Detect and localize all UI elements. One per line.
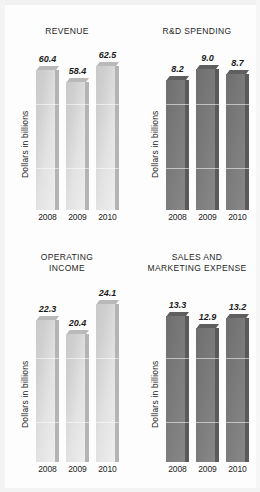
bar-slot-2010: 13.2	[226, 298, 249, 462]
x-axis-revenue: 2008 2009 2010	[36, 212, 128, 222]
x-tick-2010: 2010	[96, 212, 119, 222]
plot-area-revenue: 60.4 58.4 62.5	[36, 62, 128, 210]
x-tick-2009: 2009	[196, 212, 219, 222]
y-axis-caption-revenue: Dollars in billions	[20, 88, 30, 178]
bar-side-face	[85, 82, 89, 210]
chart-grid: REVENUE Dollars in billions 60.4 58.4	[0, 0, 260, 492]
bar-sales-2008[interactable]	[166, 312, 189, 462]
bar-front-face	[36, 70, 55, 210]
x-tick-2009: 2009	[66, 464, 89, 474]
bar-slot-2008: 22.3	[36, 298, 59, 462]
bar-value-label: 24.1	[99, 288, 117, 298]
bar-value-label: 12.9	[199, 312, 217, 322]
bar-front-face	[226, 74, 245, 210]
bar-slot-2010: 24.1	[96, 298, 119, 462]
bar-front-face	[196, 69, 215, 210]
bar-rd-2008[interactable]	[166, 76, 189, 210]
bar-side-face	[215, 328, 219, 462]
x-tick-2009: 2009	[66, 212, 89, 222]
bar-side-face	[55, 70, 59, 210]
x-tick-2010: 2010	[96, 464, 119, 474]
x-axis-operating-income: 2008 2009 2010	[36, 464, 128, 474]
bar-value-label: 58.4	[69, 66, 87, 76]
y-axis-caption-rd-spending: Dollars in billions	[150, 88, 160, 178]
bar-slot-2009: 58.4	[66, 62, 89, 210]
bar-rd-2010[interactable]	[226, 70, 249, 210]
x-axis-rd-spending: 2008 2009 2010	[166, 212, 258, 222]
bar-value-label: 60.4	[39, 54, 57, 64]
bar-front-face	[66, 334, 85, 462]
plot-area-rd-spending: 8.2 9.0 8.7	[166, 62, 258, 210]
x-tick-2008: 2008	[36, 464, 59, 474]
bar-value-label: 62.5	[99, 50, 117, 60]
bar-rd-2009[interactable]	[196, 65, 219, 210]
bar-slot-2008: 60.4	[36, 62, 59, 210]
bar-value-label: 13.3	[169, 300, 187, 310]
bar-sales-2010[interactable]	[226, 314, 249, 462]
bar-value-label: 9.0	[201, 53, 214, 63]
bar-value-label: 8.2	[171, 64, 184, 74]
plot-area-operating-income: 22.3 20.4 24.1	[36, 298, 128, 462]
bar-revenue-2008[interactable]	[36, 66, 59, 210]
bar-side-face	[85, 334, 89, 462]
bar-side-face	[245, 318, 249, 462]
bar-front-face	[196, 328, 215, 462]
y-axis-caption-sales-marketing-expense: Dollars in billions	[150, 338, 160, 428]
bar-front-face	[36, 320, 55, 462]
bar-slot-2009: 20.4	[66, 298, 89, 462]
bar-front-face	[96, 66, 115, 210]
bar-slot-2009: 9.0	[196, 62, 219, 210]
bar-front-face	[166, 316, 185, 462]
bar-operating-2009[interactable]	[66, 330, 89, 462]
chart-sheet: REVENUE Dollars in billions 60.4 58.4	[0, 0, 260, 492]
bar-slot-2010: 62.5	[96, 62, 119, 210]
bar-value-label: 8.7	[231, 58, 244, 68]
bar-slot-2008: 8.2	[166, 62, 189, 210]
x-tick-2010: 2010	[226, 464, 249, 474]
x-tick-2010: 2010	[226, 212, 249, 222]
chart-panel-rd-spending: R&D SPENDING Dollars in billions 8.2 9.0	[130, 0, 260, 240]
bar-sales-2009[interactable]	[196, 324, 219, 462]
chart-panel-revenue: REVENUE Dollars in billions 60.4 58.4	[0, 0, 130, 240]
bar-slot-2009: 12.9	[196, 298, 219, 462]
bar-front-face	[166, 80, 185, 210]
bar-value-label: 22.3	[39, 304, 57, 314]
x-tick-2008: 2008	[36, 212, 59, 222]
chart-title-rd-spending: R&D SPENDING	[140, 26, 254, 37]
chart-panel-operating-income: OPERATING INCOME Dollars in billions 22.…	[0, 240, 130, 492]
bar-value-label: 13.2	[229, 302, 247, 312]
bar-side-face	[185, 80, 189, 210]
bar-slot-2010: 8.7	[226, 62, 249, 210]
bar-front-face	[96, 304, 115, 462]
bar-side-face	[115, 304, 119, 462]
chart-panel-sales-marketing-expense: SALES AND MARKETING EXPENSE Dollars in b…	[130, 240, 260, 492]
y-axis-caption-operating-income: Dollars in billions	[20, 338, 30, 428]
plot-area-sales-marketing-expense: 13.3 12.9 13.2	[166, 298, 258, 462]
bar-side-face	[115, 66, 119, 210]
chart-title-sales-marketing-expense: SALES AND MARKETING EXPENSE	[140, 252, 254, 274]
bar-side-face	[215, 69, 219, 210]
x-tick-2008: 2008	[166, 464, 189, 474]
bar-side-face	[185, 316, 189, 462]
bar-revenue-2010[interactable]	[96, 62, 119, 210]
bar-revenue-2009[interactable]	[66, 78, 89, 210]
x-tick-2009: 2009	[196, 464, 219, 474]
x-axis-sales-marketing-expense: 2008 2009 2010	[166, 464, 258, 474]
chart-title-operating-income: OPERATING INCOME	[10, 252, 124, 274]
bar-value-label: 20.4	[69, 318, 87, 328]
bar-front-face	[66, 82, 85, 210]
bar-slot-2008: 13.3	[166, 298, 189, 462]
bar-side-face	[55, 320, 59, 462]
bar-front-face	[226, 318, 245, 462]
bar-operating-2010[interactable]	[96, 300, 119, 462]
x-tick-2008: 2008	[166, 212, 189, 222]
bar-side-face	[245, 74, 249, 210]
bar-operating-2008[interactable]	[36, 316, 59, 462]
chart-title-revenue: REVENUE	[10, 26, 124, 37]
